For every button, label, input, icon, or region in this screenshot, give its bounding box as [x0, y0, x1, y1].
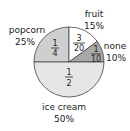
svg-text:1: 1	[52, 39, 57, 48]
label-none: none	[104, 41, 127, 51]
svg-text:2: 2	[66, 79, 71, 88]
label-fruit: fruit	[85, 9, 104, 19]
svg-text:1: 1	[93, 45, 98, 54]
svg-text:20: 20	[74, 44, 84, 53]
pie-chart: 1 4 3 20 1 10 1 2 fruit 15% popcorn 25% …	[0, 0, 130, 131]
pct-fruit: 15%	[84, 21, 104, 31]
label-ice-cream: ice cream	[42, 102, 86, 112]
pct-none: 10%	[106, 53, 126, 63]
label-popcorn: popcorn	[9, 25, 46, 35]
svg-text:4: 4	[52, 49, 57, 58]
pct-ice-cream: 50%	[54, 114, 74, 124]
svg-text:10: 10	[91, 55, 101, 64]
svg-text:1: 1	[66, 68, 71, 77]
pct-popcorn: 25%	[15, 37, 35, 47]
svg-text:3: 3	[76, 34, 81, 43]
